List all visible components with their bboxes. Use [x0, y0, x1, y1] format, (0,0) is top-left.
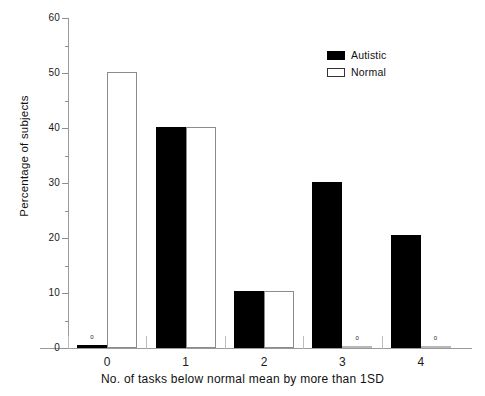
y-tick-label-30: 30	[36, 177, 60, 188]
bar-autistic-0	[77, 345, 107, 348]
y-tick-label-20: 20	[36, 232, 60, 243]
y-tick-label-50: 50	[36, 67, 60, 78]
legend-label-autistic: Autistic	[351, 48, 386, 63]
x-tick-label-0: 0	[92, 355, 122, 369]
y-tick-label-60: 60	[36, 12, 60, 23]
legend-label-normal: Normal	[351, 65, 386, 80]
y-tick-label-40: 40	[36, 122, 60, 133]
x-tick-label-1: 1	[171, 355, 201, 369]
x-tick-label-2: 2	[249, 355, 279, 369]
bar-normal-0	[107, 72, 137, 348]
zero-annotation-autistic-0: 0	[90, 334, 93, 340]
bar-normal-3	[342, 346, 372, 348]
bar-chart-figure: 0102030405060 01234 000 Percentage of su…	[0, 0, 485, 396]
x-axis-line	[40, 348, 472, 349]
zero-annotation-normal-3: 0	[355, 335, 358, 341]
bar-normal-4	[421, 346, 451, 348]
y-tick-label-10: 10	[36, 287, 60, 298]
legend-swatch-autistic-icon	[327, 51, 345, 60]
bar-autistic-4	[391, 235, 421, 348]
x-tick-label-3: 3	[327, 355, 357, 369]
x-tick-label-4: 4	[406, 355, 436, 369]
bar-normal-1	[186, 127, 216, 348]
bar-normal-2	[264, 291, 294, 348]
y-axis-title: Percentage of subjects	[18, 56, 30, 256]
bar-autistic-1	[156, 127, 186, 348]
bar-autistic-3	[312, 182, 342, 348]
legend-item-autistic: Autistic	[327, 48, 386, 63]
x-axis-title: No. of tasks below normal mean by more t…	[0, 372, 485, 386]
bar-autistic-2	[234, 291, 264, 348]
y-tick-label-0: 0	[36, 342, 60, 353]
plot-area: 000	[68, 18, 460, 348]
legend-item-normal: Normal	[327, 65, 386, 80]
zero-annotation-normal-4: 0	[434, 335, 437, 341]
legend-swatch-normal-icon	[327, 68, 345, 77]
chart-legend: Autistic Normal	[327, 48, 386, 82]
